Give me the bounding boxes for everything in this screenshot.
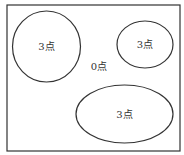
- left-circle-label: 3点: [38, 41, 54, 52]
- target-diagram: 3点 3点 3点 0点: [0, 0, 184, 155]
- frame-rectangle: [7, 5, 180, 151]
- outside-region-label: 0点: [91, 61, 107, 72]
- bottom-ellipse-label: 3点: [116, 109, 132, 120]
- top-right-circle-label: 3点: [137, 39, 153, 50]
